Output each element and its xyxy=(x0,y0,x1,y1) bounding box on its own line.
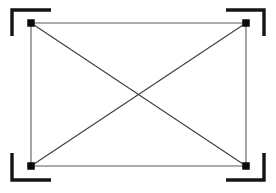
diagram-canvas xyxy=(0,0,276,193)
canvas-background xyxy=(0,0,276,193)
node-top-right xyxy=(242,19,250,27)
node-top-left xyxy=(27,19,35,27)
diagram-svg xyxy=(0,0,276,193)
node-bottom-right xyxy=(242,162,250,170)
node-bottom-left xyxy=(27,162,35,170)
